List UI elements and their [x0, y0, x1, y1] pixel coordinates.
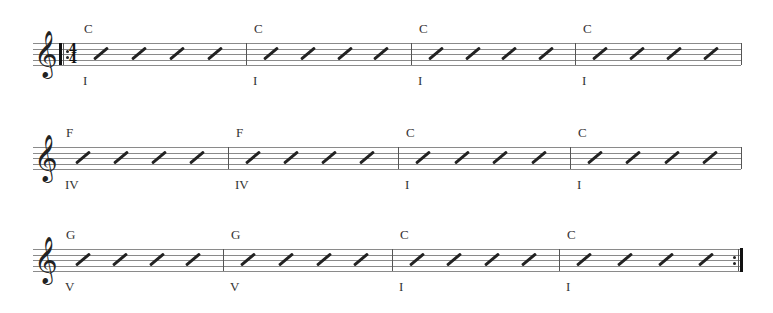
barline — [411, 43, 412, 65]
barline — [741, 43, 742, 65]
staff-line — [33, 169, 741, 170]
staff-line — [33, 271, 743, 272]
chord-symbol: C — [254, 21, 263, 37]
roman-numeral: I — [577, 177, 581, 193]
roman-numeral: I — [253, 73, 257, 89]
chord-symbol: C — [567, 227, 576, 243]
staff-line — [33, 249, 743, 250]
staff-line — [33, 158, 741, 159]
chord-symbol: F — [236, 125, 243, 141]
treble-clef-icon: 𝄞 — [34, 239, 58, 279]
barline — [570, 147, 571, 169]
chord-symbol: F — [66, 125, 73, 141]
barline — [228, 147, 229, 169]
staff-line — [33, 60, 741, 61]
repeat-end-thick-bar — [740, 248, 743, 272]
roman-numeral: I — [405, 177, 409, 193]
repeat-start-thin-bar — [63, 43, 64, 65]
repeat-dot — [733, 262, 736, 265]
repeat-end-thin-bar — [738, 249, 739, 271]
roman-numeral: V — [230, 279, 239, 295]
barline — [575, 43, 576, 65]
staff-line — [33, 43, 741, 44]
staff-line — [33, 147, 741, 148]
staff-line — [33, 255, 743, 256]
roman-numeral: I — [83, 73, 87, 89]
roman-numeral: I — [418, 73, 422, 89]
chord-symbol: C — [419, 21, 428, 37]
time-signature-bottom: 4 — [68, 54, 78, 64]
barline — [559, 249, 560, 271]
chord-symbol: G — [66, 227, 75, 243]
roman-numeral: I — [566, 279, 570, 295]
barline — [246, 43, 247, 65]
repeat-dot — [733, 256, 736, 259]
time-signature: 44 — [68, 44, 78, 64]
treble-clef-icon: 𝄞 — [34, 137, 58, 177]
roman-numeral: IV — [235, 177, 249, 193]
chord-symbol: C — [406, 125, 415, 141]
roman-numeral: V — [65, 279, 74, 295]
repeat-start-thick-bar — [59, 43, 62, 65]
chord-symbol: C — [84, 21, 93, 37]
barline — [741, 147, 742, 169]
treble-clef-icon: 𝄞 — [34, 33, 58, 73]
roman-numeral: IV — [65, 177, 79, 193]
staff-line — [33, 266, 743, 267]
roman-numeral: I — [399, 279, 403, 295]
staff-line — [33, 65, 741, 66]
chord-symbol: C — [578, 125, 587, 141]
chord-symbol: C — [583, 21, 592, 37]
chord-symbol: G — [231, 227, 240, 243]
barline — [398, 147, 399, 169]
chord-symbol: C — [400, 227, 409, 243]
roman-numeral: I — [582, 73, 586, 89]
barline — [392, 249, 393, 271]
staff-line — [33, 260, 743, 261]
barline — [223, 249, 224, 271]
staff-line — [33, 164, 741, 165]
